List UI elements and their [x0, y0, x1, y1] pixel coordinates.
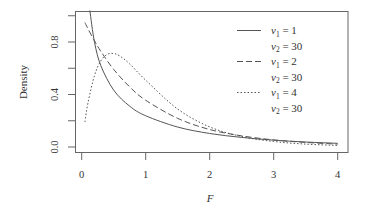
legend-label: v2 = 30: [271, 71, 303, 86]
plot-frame: [76, 12, 349, 153]
legend-label: v1 = 1: [271, 24, 297, 39]
series-line-dotted: [85, 53, 338, 145]
x-tick-label: 3: [271, 169, 276, 180]
f-distribution-density-chart: 0.00.40.8 01234 Density F v1 = 1v2 = 30v…: [0, 0, 367, 215]
y-axis-title: Density: [17, 64, 29, 99]
legend-label: v2 = 30: [271, 40, 303, 55]
y-tick-label: 0.8: [49, 35, 60, 48]
x-axis-title: F: [206, 192, 214, 204]
y-axis: 0.00.40.8: [49, 16, 76, 154]
y-tick-label: 0.4: [49, 87, 60, 101]
legend-label: v2 = 30: [271, 102, 303, 117]
legend: v1 = 1v2 = 30v1 = 2v2 = 30v1 = 4v2 = 30: [237, 24, 303, 116]
legend-label: v1 = 4: [271, 86, 297, 101]
y-tick-label: 0.0: [49, 140, 60, 153]
x-tick-label: 1: [143, 169, 148, 180]
x-tick-label: 0: [79, 169, 84, 180]
legend-label: v1 = 2: [271, 55, 297, 70]
x-axis: 01234: [79, 153, 341, 181]
x-tick-label: 2: [207, 169, 212, 180]
x-tick-label: 4: [335, 169, 341, 180]
